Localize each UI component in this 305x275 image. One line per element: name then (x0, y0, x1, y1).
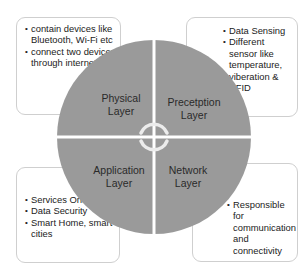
label-line: Application (84, 164, 154, 177)
network-layer-label: Network Layer (158, 164, 218, 189)
label-line: Network (158, 164, 218, 177)
note-item: Data Sensing (223, 25, 293, 36)
application-layer-label: Application Layer (84, 164, 154, 189)
label-line: Layer (158, 177, 218, 190)
label-line: Physical (86, 92, 156, 105)
layer-circle (57, 40, 251, 234)
physical-layer-label: Physical Layer (86, 92, 156, 117)
perception-layer-label: Precetption Layer (158, 96, 230, 121)
label-line: Precetption (158, 96, 230, 109)
label-line: Layer (84, 177, 154, 190)
label-line: Layer (86, 105, 156, 118)
label-line: Layer (158, 109, 230, 122)
